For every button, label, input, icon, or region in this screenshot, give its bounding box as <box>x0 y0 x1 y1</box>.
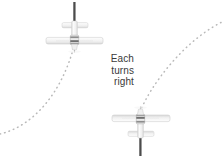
upper-aircraft <box>46 2 103 53</box>
caption-line-2: turns <box>96 65 134 77</box>
lower-aircraft-propeller <box>134 107 146 109</box>
lower-aircraft <box>112 107 170 157</box>
upper-aircraft-propeller <box>68 51 80 53</box>
left-flight-path <box>0 46 74 134</box>
right-flight-path <box>140 21 224 112</box>
lower-aircraft-cabin <box>136 115 144 124</box>
lower-aircraft-tail-fin <box>140 136 141 156</box>
upper-aircraft-tail-fin <box>74 2 75 23</box>
diagram-canvas: Each turns right <box>0 0 224 158</box>
caption-each-turns-right: Each turns right <box>96 53 134 88</box>
caption-line-3: right <box>96 76 134 88</box>
caption-line-1: Each <box>96 53 134 65</box>
upper-aircraft-cabin <box>70 35 78 44</box>
